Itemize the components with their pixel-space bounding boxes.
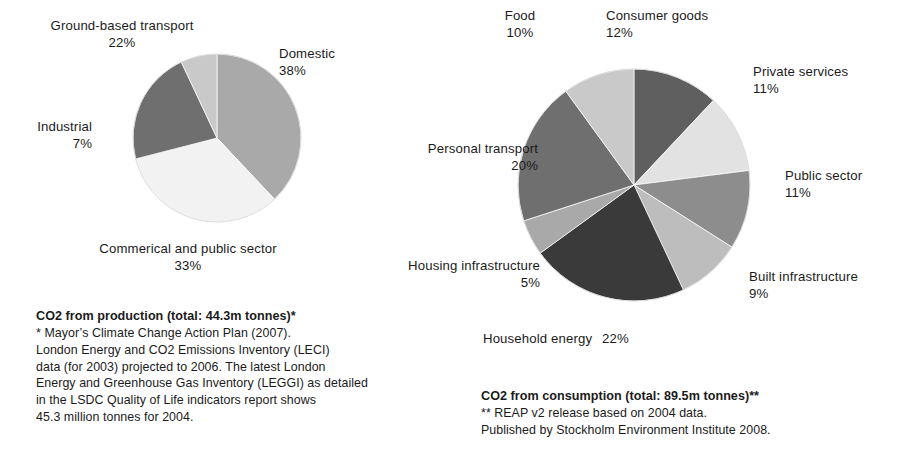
pie-label-ground-based-transport: Ground-based transport 22% — [24, 18, 220, 51]
pie-label-public-sector-value: 11% — [785, 185, 862, 202]
pie-label-public-sector-name: Public sector — [785, 168, 862, 183]
pie-label-industrial: Industrial 7% — [0, 119, 92, 152]
pie-label-domestic-value: 38% — [279, 63, 335, 80]
pie-label-food-value: 10% — [486, 25, 554, 42]
pie-label-personal-transport: Personal transport 20% — [360, 141, 538, 174]
consumption-caption-title: CO2 from consumption (total: 89.5m tonne… — [481, 388, 901, 405]
pie-label-commercial-public-sector-value: 33% — [58, 258, 318, 275]
pie-label-ground-based-transport-value: 22% — [24, 35, 220, 52]
pie-label-commercial-public-sector-name: Commerical and public sector — [99, 241, 276, 256]
production-caption: CO2 from production (total: 44.3m tonnes… — [36, 308, 428, 425]
pie-label-food: Food 10% — [486, 8, 554, 41]
pie-label-consumer-goods-value: 12% — [606, 25, 708, 42]
pie-label-built-infrastructure-name: Built infrastructure — [749, 269, 858, 284]
pie-label-ground-based-transport-name: Ground-based transport — [51, 18, 194, 33]
pie-label-built-infrastructure: Built infrastructure 9% — [749, 269, 858, 302]
pie-label-food-name: Food — [505, 8, 536, 23]
pie-label-consumer-goods: Consumer goods 12% — [606, 8, 708, 41]
pie-label-private-services: Private services 11% — [753, 64, 848, 97]
pie-label-commercial-public-sector: Commerical and public sector 33% — [58, 241, 318, 274]
pie-label-public-sector: Public sector 11% — [785, 168, 862, 201]
pie-label-domestic: Domestic 38% — [279, 46, 335, 79]
pie-label-household-energy: Household energy 22% — [483, 331, 629, 348]
production-caption-title: CO2 from production (total: 44.3m tonnes… — [36, 308, 428, 325]
pie-label-housing-infrastructure: Housing infrastructure 5% — [360, 258, 540, 291]
pie-label-private-services-value: 11% — [753, 81, 848, 98]
pie-label-private-services-name: Private services — [753, 64, 848, 79]
pie-label-industrial-name: Industrial — [37, 119, 92, 134]
pie-label-housing-infrastructure-value: 5% — [360, 275, 540, 292]
pie-label-domestic-name: Domestic — [279, 46, 335, 61]
pie-label-personal-transport-value: 20% — [360, 158, 538, 175]
pie-label-built-infrastructure-value: 9% — [749, 286, 858, 303]
pie-label-housing-infrastructure-name: Housing infrastructure — [408, 258, 540, 273]
pie-label-industrial-value: 7% — [0, 136, 92, 153]
pie-label-household-energy-name: Household energy — [483, 331, 592, 346]
pie-label-personal-transport-name: Personal transport — [428, 141, 538, 156]
consumption-caption: CO2 from consumption (total: 89.5m tonne… — [481, 388, 901, 439]
consumption-caption-body: ** REAP v2 release based on 2004 data. P… — [481, 405, 901, 438]
production-caption-body: * Mayor’s Climate Change Action Plan (20… — [36, 325, 428, 425]
pie-label-consumer-goods-name: Consumer goods — [606, 8, 708, 23]
pie-label-household-energy-value: 22% — [596, 331, 629, 346]
